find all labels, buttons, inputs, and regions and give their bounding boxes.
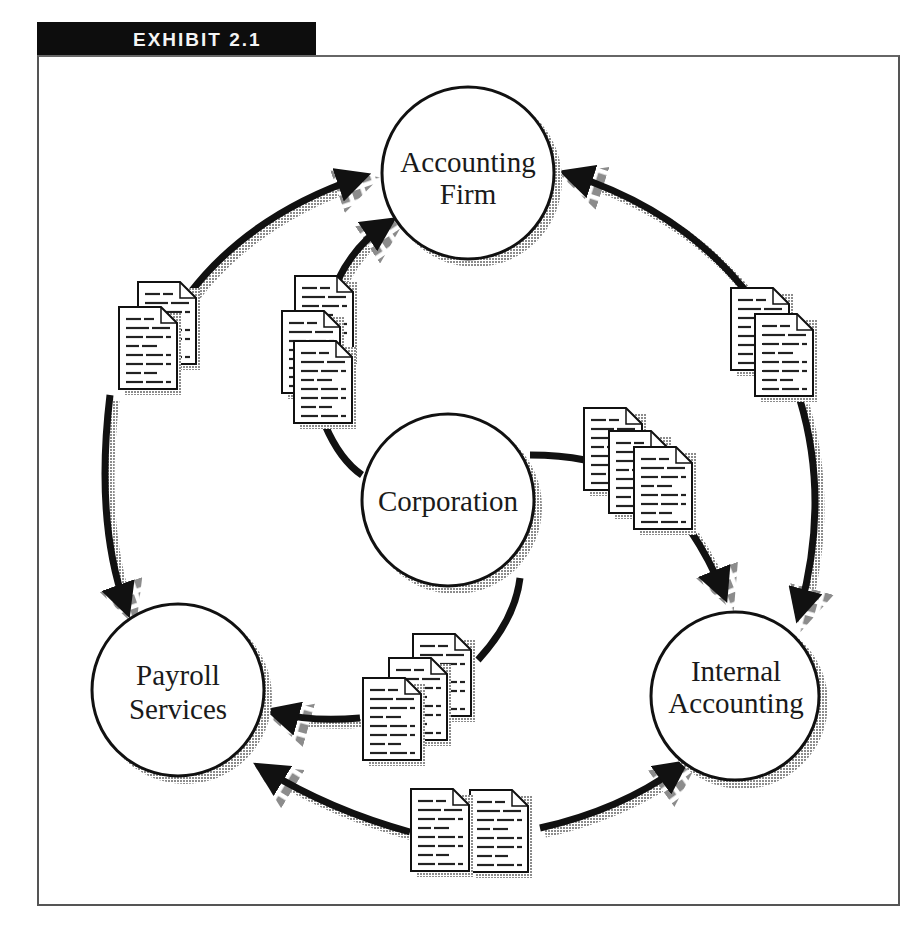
node-accounting-firm: Accounting Firm (382, 87, 554, 259)
documents-corporation-to-accounting-firm (282, 276, 357, 429)
arrow-corporation-to-internal (690, 530, 722, 590)
arrow-internal-to-accounting-firm (572, 175, 745, 290)
documents-corporation-to-internal (584, 408, 696, 535)
node-label: Accounting (400, 146, 535, 178)
documents-payroll-internal (411, 789, 532, 878)
documents-payroll-to-accounting-firm (119, 282, 200, 395)
documents-internal-accounting-firm (731, 288, 817, 402)
documents-corporation-to-payroll (363, 634, 475, 766)
document-icon (363, 678, 425, 766)
document-flow-diagram: Accounting Firm Corporation Payroll Serv… (0, 0, 916, 934)
document-icon (294, 341, 356, 429)
node-corporation: Corporation (362, 414, 534, 586)
arrow-payroll-to-internal (540, 768, 678, 828)
node-payroll-services: Payroll Services (92, 604, 264, 776)
node-label: Firm (440, 178, 497, 210)
node-internal-accounting: Internal Accounting (651, 612, 819, 780)
node-label: Accounting (668, 687, 803, 719)
document-icon (755, 314, 817, 402)
document-icon (470, 790, 532, 878)
arrow-internal-to-payroll (265, 770, 410, 832)
arrow-corporation-to-payroll (278, 713, 360, 719)
node-label: Internal (691, 655, 781, 687)
node-label: Services (129, 693, 227, 725)
document-icon (411, 789, 473, 877)
node-label: Corporation (378, 485, 519, 517)
document-icon (634, 447, 696, 535)
node-label: Payroll (136, 659, 220, 691)
document-icon (119, 307, 181, 395)
